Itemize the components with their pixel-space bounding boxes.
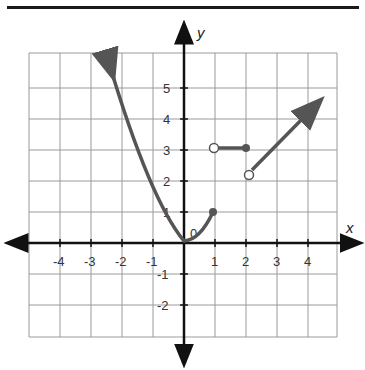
open-point — [210, 144, 219, 153]
open-point — [245, 171, 254, 180]
y-tick-label: 4 — [163, 112, 170, 127]
y-tick-label: -2 — [157, 298, 169, 313]
closed-point — [209, 208, 217, 216]
closed-point — [242, 144, 250, 152]
x-tick-label: 3 — [273, 254, 280, 269]
function-graph: -4 -3 -2 -1 1 2 3 4 5 4 3 2 1 -1 -2 y x … — [0, 0, 365, 370]
linear-piece — [252, 111, 310, 170]
y-tick-label: 2 — [163, 174, 170, 189]
x-axis-label: x — [345, 219, 354, 236]
x-tick-label: 4 — [304, 254, 311, 269]
x-tick-label: 2 — [242, 254, 249, 269]
y-tick-label: 5 — [163, 81, 170, 96]
y-tick-label: 3 — [163, 143, 170, 158]
x-tick-label: -2 — [115, 254, 127, 269]
x-tick-label: -1 — [146, 254, 158, 269]
x-tick-label: -3 — [84, 254, 96, 269]
y-tick-label: -1 — [157, 267, 169, 282]
x-tick-label: 1 — [211, 254, 218, 269]
parabola-piece — [109, 63, 213, 241]
y-axis-label: y — [196, 24, 206, 41]
x-tick-label: -4 — [53, 254, 65, 269]
